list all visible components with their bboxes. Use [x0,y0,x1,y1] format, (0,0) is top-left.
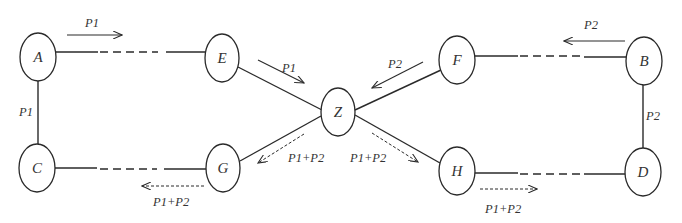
flow-label-a-e: P1 [84,16,99,30]
node-e: E [205,34,239,82]
node-label: H [451,163,464,179]
flow-label-a-c: P1 [18,105,33,119]
node-h: H [439,147,475,195]
node-label: C [32,160,43,176]
node-a: A [20,33,56,81]
network-flow-diagram: P1 P1 P1 P2 P2 P2 P1+P2 P1+P2 P1+P2 P1+P… [0,0,682,223]
node-f: F [439,36,475,84]
node-label: E [216,50,226,66]
flow-label-z-g: P1+P2 [287,151,324,165]
edge-c-g [55,168,206,169]
edge-f-b [475,56,626,57]
node-label: A [32,49,43,65]
node-label: G [218,160,229,176]
node-b: B [626,37,662,85]
edge-f-z [355,70,441,110]
node-d: D [625,148,661,196]
flow-label-b-f: P2 [583,18,598,32]
edge-e-z [238,67,322,110]
flow-label-h-d: P1+P2 [484,202,521,216]
node-g: G [206,144,240,192]
flow-label-g-c: P1+P2 [152,195,189,209]
flow-label-e-z: P1 [281,61,296,75]
node-z: Z [321,88,355,136]
node-label: B [639,53,648,69]
nodes: A C E G Z F H B [19,33,662,196]
flow-label-f-z: P2 [387,57,402,71]
node-label: Z [334,104,343,120]
arrow-down-right-icon [258,60,304,83]
node-label: D [637,164,649,180]
node-label: F [451,52,462,68]
flow-label-b-d: P2 [645,109,660,123]
edge-h-d [475,173,625,174]
flow-label-z-h: P1+P2 [349,151,386,165]
node-c: C [19,144,55,192]
